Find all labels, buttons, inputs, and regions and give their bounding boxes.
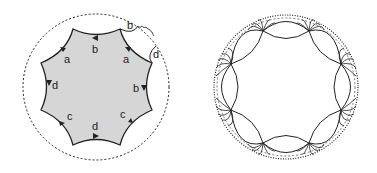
- label-lower-left: c: [67, 110, 73, 122]
- label-upper-right: a: [123, 53, 130, 65]
- label-top: b: [92, 43, 98, 55]
- label-bottom: d: [92, 120, 98, 132]
- outside-arc-squiggle: [138, 26, 154, 36]
- label-right: b: [133, 82, 139, 94]
- label-lower-right: c: [120, 108, 126, 120]
- outer-geodesics: [222, 22, 351, 153]
- left-figure: b a a d b c c d b d: [23, 14, 169, 160]
- right-figure: [214, 15, 358, 159]
- label-left: d: [52, 79, 58, 91]
- vertex-fans: [216, 20, 356, 155]
- geodesic-arcs: [231, 31, 341, 143]
- poincare-disk-boundary: [214, 15, 358, 159]
- diagram-canvas: b a a d b c c d b d: [0, 0, 377, 173]
- label-outside-b: b: [127, 19, 133, 31]
- label-upper-left: a: [64, 53, 71, 65]
- label-outside-d: d: [153, 48, 159, 60]
